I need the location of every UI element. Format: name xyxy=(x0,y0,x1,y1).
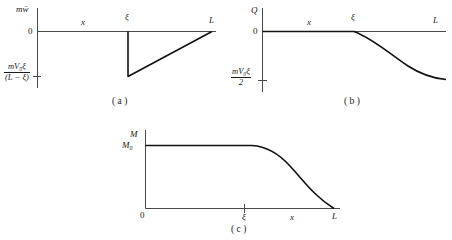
panel-a-value-numerator: mV₀ξ xyxy=(4,62,30,72)
panel-c-xi-label: ξ xyxy=(242,213,246,222)
panel-c-m0-label: M₀ xyxy=(122,141,133,150)
panel-b: Q 0 x ξ L mV₀ξ 2 ( b ) xyxy=(226,0,452,120)
panel-c-m0-text: M₀ xyxy=(122,140,133,150)
panel-c-plot xyxy=(100,118,360,240)
panel-c: M M₀ 0 ξ x L ( c ) xyxy=(100,118,360,240)
panel-a-data-curve xyxy=(128,32,212,77)
panel-b-L-label: L xyxy=(433,16,438,25)
panel-c-zero-label: 0 xyxy=(140,211,145,220)
panel-c-x-label: x xyxy=(290,213,294,222)
panel-b-plot xyxy=(226,0,452,120)
panel-a-value-denominator: (L − ξ) xyxy=(4,72,30,83)
panel-a-x-label: x xyxy=(81,18,85,27)
panel-a-L-label: L xyxy=(209,16,214,25)
panel-b-x-label: x xyxy=(307,18,311,27)
panel-a-zero-label: 0 xyxy=(28,27,33,36)
panel-a-y-axis-label: mẅ xyxy=(16,5,29,14)
panel-b-xi-label: ξ xyxy=(351,13,355,22)
panel-b-caption: ( b ) xyxy=(344,96,360,106)
panel-c-y-axis-label: M xyxy=(130,130,138,139)
panel-b-data-curve xyxy=(263,32,447,80)
panel-c-caption: ( c ) xyxy=(231,224,246,234)
panel-c-data-curve xyxy=(146,146,335,209)
panel-b-value-label: mV₀ξ 2 xyxy=(231,67,251,87)
panel-c-L-label: L xyxy=(332,212,337,221)
panel-a: mẅ 0 x ξ L mV₀ξ (L − ξ) ( a ) xyxy=(0,0,226,120)
panel-a-xi-label: ξ xyxy=(125,13,129,22)
panel-b-zero-label: 0 xyxy=(253,27,258,36)
panel-a-value-label: mV₀ξ (L − ξ) xyxy=(4,62,30,82)
panel-b-y-axis-label: Q xyxy=(251,6,258,15)
panel-a-caption: ( a ) xyxy=(112,96,127,106)
panel-b-value-numerator: mV₀ξ xyxy=(231,67,251,77)
panel-b-value-denominator: 2 xyxy=(231,77,251,88)
